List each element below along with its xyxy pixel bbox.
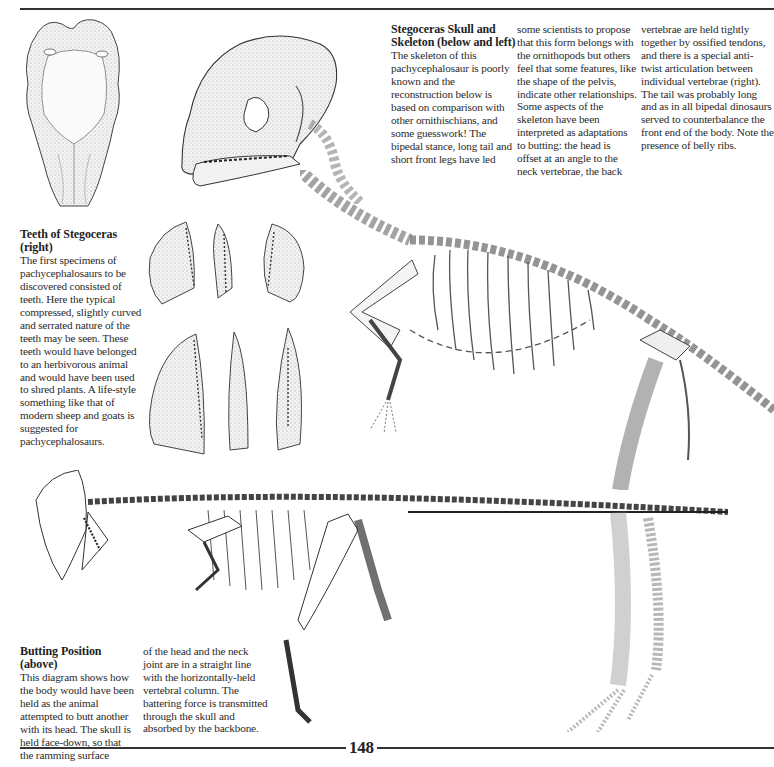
butting-column-2: of the head and the neck joint are in a … <box>143 645 268 735</box>
skull-skeleton-column-2: some scientists to propose that this for… <box>517 23 637 178</box>
bottom-rule <box>20 747 774 749</box>
skull-skeleton-heading: Stegoceras Skull and Skeleton (below and… <box>391 23 517 49</box>
skull-skeleton-column-1: Stegoceras Skull and Skeleton (below and… <box>391 23 517 166</box>
butting-text-2: of the head and the neck joint are in a … <box>143 645 268 735</box>
skull-skeleton-column-3: vertebrae are held tightly together by o… <box>641 23 774 152</box>
top-rule <box>20 8 774 10</box>
butting-heading: Butting Position (above) <box>20 645 136 671</box>
skull-skeleton-text-1: The skeleton of this pachycephalosaur is… <box>391 49 517 165</box>
teeth-column: Teeth of Stegoceras (right) The first sp… <box>20 228 145 448</box>
butting-column-1: Butting Position (above) This diagram sh… <box>20 645 136 762</box>
upright-skeleton-illustration <box>300 170 774 490</box>
teeth-text: The first specimens of pachycephalosaurs… <box>20 254 145 448</box>
teeth-illustration <box>142 218 322 468</box>
page-number: 148 <box>346 738 377 758</box>
teeth-heading: Teeth of Stegoceras (right) <box>20 228 145 254</box>
skull-skeleton-text-3: vertebrae are held tightly together by o… <box>641 23 774 152</box>
skull-top-view-illustration <box>18 14 130 214</box>
skull-skeleton-text-2: some scientists to propose that this for… <box>517 23 637 178</box>
